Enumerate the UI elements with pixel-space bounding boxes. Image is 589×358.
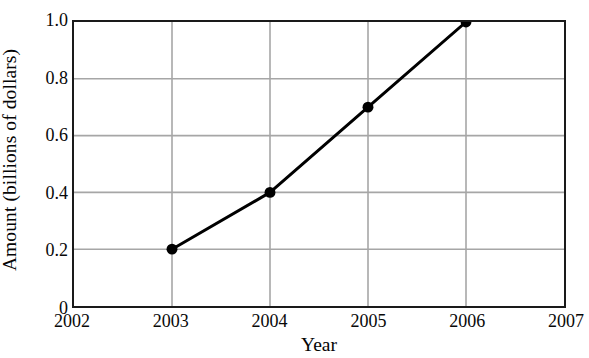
- data-point-2005: [363, 102, 374, 113]
- x-tick-label-2005: 2005: [323, 310, 413, 332]
- series-line-amount: [172, 22, 466, 249]
- data-point-2004: [265, 187, 276, 198]
- x-tick-label-2007: 2007: [521, 310, 589, 332]
- y-axis-tick-labels: 00.20.40.60.81.0: [22, 0, 68, 358]
- x-tick-label-2006: 2006: [422, 310, 512, 332]
- y-tick-label-0.4: 0.4: [22, 184, 68, 202]
- x-tick-label-2002: 2002: [27, 310, 117, 332]
- y-axis-title: Amount (billions of dollars): [0, 0, 20, 320]
- y-tick-label-0.6: 0.6: [22, 126, 68, 144]
- cropped-title-strip: [190, 0, 400, 5]
- x-axis-tick-labels: 200220032004200520062007: [0, 310, 584, 336]
- plot-area: [72, 20, 566, 308]
- y-tick-label-0.8: 0.8: [22, 69, 68, 87]
- data-series-amount: [74, 22, 564, 306]
- x-axis-title: Year: [72, 334, 566, 356]
- data-point-2003: [167, 244, 178, 255]
- y-tick-label-0.2: 0.2: [22, 241, 68, 259]
- x-tick-label-2004: 2004: [225, 310, 315, 332]
- x-axis-title-text: Year: [301, 334, 337, 355]
- y-tick-label-1.0: 1.0: [22, 11, 68, 29]
- x-tick-label-2003: 2003: [126, 310, 216, 332]
- y-axis-title-text: Amount (billions of dollars): [0, 49, 21, 271]
